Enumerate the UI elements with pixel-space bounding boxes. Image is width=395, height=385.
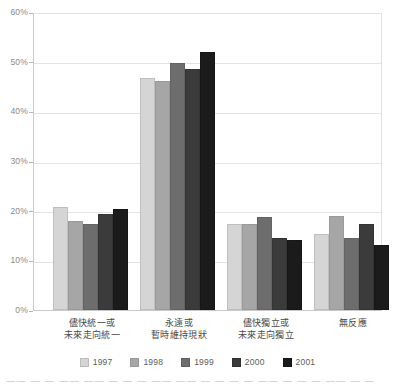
bar-1997 [314,234,329,310]
legend-label: 2001 [296,357,316,367]
bar-1998 [155,81,170,310]
plot-area [33,13,382,311]
legend-label: 1997 [93,357,113,367]
bar-1999 [83,224,98,310]
legend-item-2001[interactable]: 2001 [283,357,316,367]
bar-group-1 [53,12,133,310]
y-axis-label-50: 50% [0,58,28,67]
legend: 1997 1998 1999 2000 2001 [0,357,395,367]
bar-1998 [242,224,257,310]
x-label-line-2: 未來走向獨立 [206,330,326,342]
y-axis-label-60: 60% [0,8,28,17]
y-axis-label-40: 40% [0,107,28,116]
bar-2001 [287,240,302,310]
bar-2000 [272,238,287,310]
legend-item-1999[interactable]: 1999 [181,357,214,367]
y-axis-tick-0 [29,311,33,312]
legend-label: 1998 [143,357,163,367]
y-axis-label-0: 0% [0,306,28,315]
bar-2001 [200,52,215,310]
bar-1999 [170,63,185,310]
legend-swatch-icon [232,358,241,367]
bar-1999 [344,238,359,310]
x-label-line-1: 無反應 [293,318,395,330]
caption-text: —— — — —— —— — — — —— —— — — — — —— — — … [6,377,375,385]
bar-1997 [140,78,155,310]
bar-group-2 [140,12,220,310]
caption-clipped: —— — — —— —— — — — —— —— — — — — —— — — … [6,377,389,385]
bar-chart: 60% 50% 40% 30% 20% 10% 0% [0,0,395,385]
bar-2001 [113,209,128,310]
x-axis-label-no-response: 無反應 [293,318,395,330]
y-axis-label-10: 10% [0,256,28,265]
legend-item-2000[interactable]: 2000 [232,357,265,367]
bar-2000 [185,69,200,310]
legend-label: 1999 [194,357,214,367]
legend-item-1998[interactable]: 1998 [130,357,163,367]
bar-2001 [374,245,389,310]
legend-swatch-icon [181,358,190,367]
bar-1998 [329,216,344,310]
y-axis-label-30: 30% [0,157,28,166]
bar-group-3 [227,12,307,310]
legend-label: 2000 [245,357,265,367]
legend-item-1997[interactable]: 1997 [80,357,113,367]
legend-swatch-icon [80,358,89,367]
legend-swatch-icon [130,358,139,367]
bar-1998 [68,221,83,310]
bar-1999 [257,217,272,310]
bar-2000 [359,224,374,310]
legend-swatch-icon [283,358,292,367]
bar-group-4 [314,12,394,310]
y-axis-label-20: 20% [0,207,28,216]
bar-2000 [98,214,113,310]
bar-1997 [53,207,68,310]
bar-1997 [227,224,242,310]
